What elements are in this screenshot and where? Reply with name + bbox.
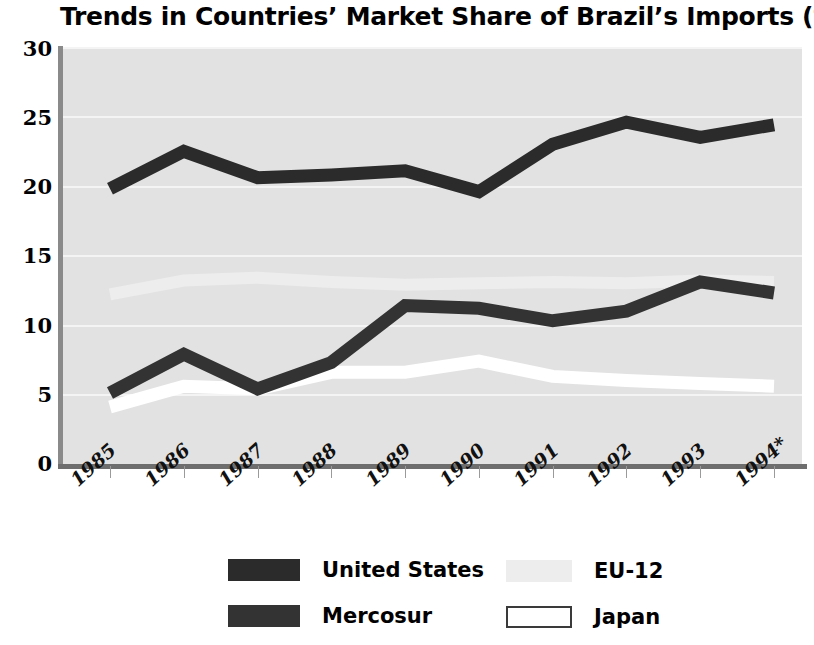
legend-swatch-eu-12 <box>506 560 572 582</box>
x-tick-mark-1989 <box>405 466 406 478</box>
x-tick-mark-1991 <box>553 466 554 478</box>
y-tick-label-10: 10 <box>0 313 52 338</box>
x-tick-mark-1987 <box>258 466 259 478</box>
legend-item-mercosur[interactable]: Mercosur <box>228 604 432 628</box>
x-tick-mark-1993 <box>700 466 701 478</box>
x-tick-mark-1986 <box>184 466 185 478</box>
chart-root: Trends in Countries’ Market Share of Bra… <box>0 0 814 645</box>
legend-item-japan[interactable]: Japan <box>506 605 660 629</box>
y-tick-label-0: 0 <box>0 451 52 476</box>
series-line-united-states <box>110 122 774 192</box>
x-tick-mark-1992 <box>626 466 627 478</box>
y-axis-line <box>58 46 63 465</box>
legend-item-united-states[interactable]: United States <box>228 558 484 582</box>
x-tick-mark-1990 <box>479 466 480 478</box>
y-tick-label-15: 15 <box>0 243 52 268</box>
legend-label-mercosur: Mercosur <box>322 604 432 628</box>
legend-swatch-mercosur <box>228 605 300 627</box>
series-lines <box>62 47 802 464</box>
legend-label-united-states: United States <box>322 558 484 582</box>
y-tick-label-25: 25 <box>0 105 52 130</box>
y-tick-label-20: 20 <box>0 174 52 199</box>
legend-label-japan: Japan <box>594 605 660 629</box>
y-tick-label-30: 30 <box>0 36 52 61</box>
legend: United States Mercosur EU-12 Japan <box>228 558 748 636</box>
plot-area <box>62 47 802 464</box>
x-tick-mark-1988 <box>331 466 332 478</box>
legend-item-eu-12[interactable]: EU-12 <box>506 559 663 583</box>
legend-swatch-japan <box>506 606 572 628</box>
legend-swatch-united-states <box>228 559 300 581</box>
x-tick-mark-1994 <box>774 466 775 478</box>
x-tick-mark-1985 <box>110 466 111 478</box>
y-tick-label-5: 5 <box>0 382 52 407</box>
page-title: Trends in Countries’ Market Share of Bra… <box>60 2 814 31</box>
legend-label-eu-12: EU-12 <box>594 559 663 583</box>
